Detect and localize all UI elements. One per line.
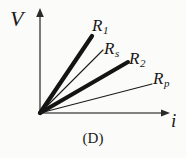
ray-label-r2: R2 <box>129 50 145 67</box>
ray-label-r2-subscript: 2 <box>140 57 146 69</box>
ray-label-rs: Rs <box>104 40 119 57</box>
ray-label-r1-subscript: 1 <box>103 24 109 36</box>
ray-label-rs-subscript: s <box>115 47 119 59</box>
x-axis-arrowhead <box>161 109 170 116</box>
ray-label-rp-base: R <box>153 69 163 88</box>
resistance-graph-figure: V i R1 Rs R2 Rp (D) <box>0 0 186 158</box>
ray-label-r2-base: R <box>129 49 139 68</box>
ray-label-rp: Rp <box>153 70 169 87</box>
ray-label-rs-base: R <box>104 39 114 58</box>
y-axis-arrowhead <box>36 8 44 17</box>
ray-label-r1: R1 <box>92 17 108 34</box>
y-axis-label: V <box>10 8 23 30</box>
ray-label-r1-base: R <box>92 16 102 35</box>
figure-caption: (D) <box>0 130 186 147</box>
ray-label-rp-subscript: p <box>164 77 170 89</box>
x-axis-label: i <box>171 111 176 130</box>
